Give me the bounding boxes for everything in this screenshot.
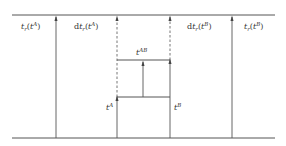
transition-diagram: tr(tA) dtr(tA) dtr(tB) tr(tB) tAB tA tB <box>0 0 286 146</box>
label-tr-b: tr(tB) <box>244 21 263 32</box>
arrow-head-tr-a-icon <box>55 16 58 22</box>
label-t-ab: tAB <box>136 47 147 57</box>
label-dtr-a: dtr(tA) <box>74 21 98 32</box>
arrow-head-center-icon <box>142 61 145 67</box>
arrow-head-dtr-b-icon <box>169 16 172 22</box>
arrow-head-dtr-a-icon <box>116 16 119 22</box>
label-t-a: tA <box>106 102 113 112</box>
arrow-head-tr-b-icon <box>231 16 234 22</box>
label-t-b: tB <box>174 102 181 112</box>
label-dtr-b: dtr(tB) <box>187 21 212 32</box>
label-tr-a: tr(tA) <box>21 21 40 32</box>
